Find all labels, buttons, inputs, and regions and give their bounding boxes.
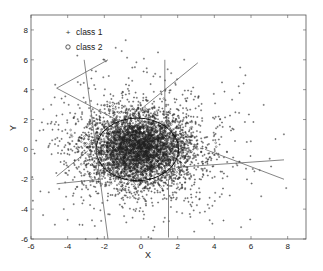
- x-tick-label: 2: [175, 242, 180, 251]
- y-tick-label: -6: [21, 235, 29, 244]
- x-tick-label: -2: [101, 242, 109, 251]
- y-tick-label: 4: [24, 86, 29, 95]
- legend-label-class-1: class 1: [76, 27, 103, 37]
- y-axis-label: Y: [8, 125, 18, 131]
- data-points: [31, 39, 287, 240]
- x-tick-label: 0: [139, 242, 144, 251]
- y-axis-ticks: -6-4-202468: [21, 26, 306, 244]
- x-axis-ticks: -6-4-202468: [27, 15, 290, 251]
- x-tick-label: 6: [249, 242, 254, 251]
- y-tick-label: 6: [24, 56, 29, 65]
- x-tick-label: -4: [64, 242, 72, 251]
- x-axis-label: X: [145, 250, 151, 260]
- x-tick-label: 8: [285, 242, 290, 251]
- y-tick-label: -2: [21, 175, 29, 184]
- x-tick-label: -6: [27, 242, 35, 251]
- legend-marker-circle-icon: [66, 45, 70, 49]
- y-tick-label: -4: [21, 205, 29, 214]
- y-tick-label: 2: [24, 116, 29, 125]
- legend-marker-plus-icon: +: [66, 28, 71, 37]
- legend: + class 1 class 2: [66, 27, 103, 52]
- direction-line: [145, 63, 198, 106]
- direction-line: [84, 60, 108, 239]
- legend-label-class-2: class 2: [76, 42, 103, 52]
- scatter-chart: -6-4-202468 -6-4-202468 X Y + class 1 cl…: [0, 0, 323, 271]
- direction-line: [57, 60, 108, 88]
- direction-line: [57, 179, 101, 183]
- y-tick-label: 8: [24, 26, 29, 35]
- x-tick-label: 4: [212, 242, 217, 251]
- y-tick-label: 0: [24, 145, 29, 154]
